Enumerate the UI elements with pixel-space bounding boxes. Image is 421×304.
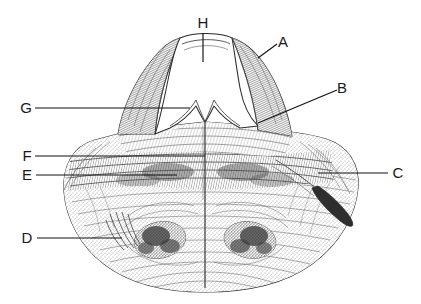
anatomical-cross-section-illustration: A B C D E F G H bbox=[0, 0, 421, 304]
specimen-drawing bbox=[60, 30, 358, 292]
label-c: C bbox=[393, 164, 404, 181]
label-b: B bbox=[337, 79, 347, 96]
leader-line-a bbox=[258, 44, 277, 58]
label-h: H bbox=[198, 14, 209, 31]
label-a: A bbox=[278, 33, 288, 50]
label-g: G bbox=[20, 99, 32, 116]
figure-container: A B C D E F G H bbox=[0, 0, 421, 304]
label-d: D bbox=[22, 229, 33, 246]
label-e: E bbox=[22, 166, 32, 183]
label-f: F bbox=[22, 147, 31, 164]
